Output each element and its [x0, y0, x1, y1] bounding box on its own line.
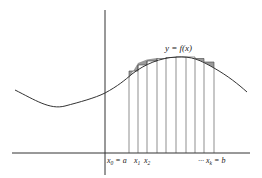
riemann-rectangles	[129, 57, 214, 153]
label-x1: x1	[133, 156, 141, 166]
label-x0-a: x0 = a	[106, 156, 127, 166]
curve-label: y = f(x)	[164, 43, 192, 53]
label-x2: x2	[143, 156, 151, 166]
riemann-sum-diagram: y = f(x) x0 = a x1 x2 ··· xk = b	[0, 0, 262, 178]
label-xk-b: ··· xk = b	[198, 156, 225, 166]
